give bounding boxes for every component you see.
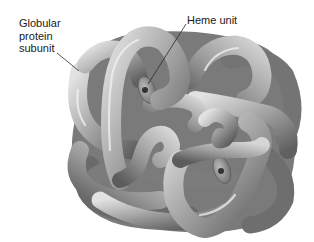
label-line-2: protein — [19, 30, 79, 43]
label-heme-unit: Heme unit — [187, 14, 237, 27]
label-line-1: Globular — [19, 17, 79, 30]
protein-diagram: Globular protein subunit Heme unit — [0, 0, 314, 242]
label-globular-protein-subunit: Globular protein subunit — [19, 17, 79, 55]
label-line-3: subunit — [19, 42, 79, 55]
subunit-leader-line — [57, 53, 79, 71]
